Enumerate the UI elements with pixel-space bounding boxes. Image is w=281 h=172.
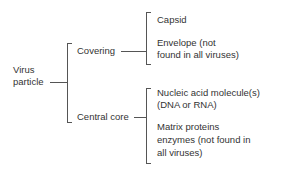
leaf-nucleic-acid-line1: Nucleic acid molecule(s) — [157, 87, 260, 98]
leaf-matrix-line1: Matrix proteins — [157, 121, 219, 132]
branch-label-central-core: Central core — [77, 111, 129, 122]
covering-connector — [121, 51, 146, 52]
covering-bracket-top-tick — [146, 12, 151, 13]
leaf-matrix-line3: all viruses) — [157, 147, 202, 158]
central-core-bracket-bottom-tick — [146, 163, 151, 164]
central-core-bracket-top-tick — [146, 88, 151, 89]
covering-bracket — [146, 12, 147, 65]
leaf-capsid: Capsid — [157, 14, 187, 25]
leaf-envelope-line1: Envelope (not — [157, 37, 216, 48]
root-label-virus: Virus — [13, 64, 34, 75]
root-connector — [50, 82, 67, 83]
central-core-bracket — [146, 88, 147, 164]
root-label-particle: particle — [13, 76, 44, 87]
leaf-matrix-line2: enzymes (not found in — [157, 134, 250, 145]
root-bracket-bottom-tick — [67, 122, 72, 123]
root-bracket — [67, 43, 68, 123]
branch-label-covering: Covering — [77, 45, 115, 56]
central-core-connector — [134, 117, 146, 118]
leaf-envelope-line2: found in all viruses) — [157, 49, 239, 60]
covering-bracket-bottom-tick — [146, 64, 151, 65]
root-bracket-top-tick — [67, 43, 72, 44]
leaf-nucleic-acid-line2: (DNA or RNA) — [157, 99, 217, 110]
